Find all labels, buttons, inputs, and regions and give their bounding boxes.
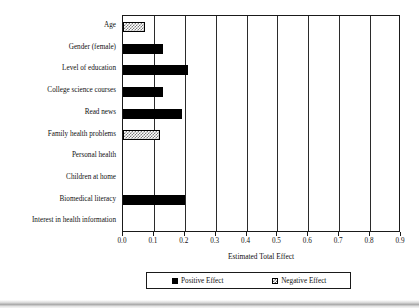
chart-legend: Positive EffectNegative Effect [146,272,351,289]
category-label: College science courses [47,80,116,102]
bar-band [123,38,399,60]
x-axis-title: Estimated Total Effect [122,252,400,261]
x-axis-tick [122,232,123,236]
x-axis-tick [153,232,154,236]
bar[interactable] [123,87,163,97]
scan-artifact-strip [0,300,419,308]
x-axis-tick-label: 0.3 [210,237,219,245]
bar-band [123,103,399,125]
x-axis-tick-label: 0.2 [179,237,188,245]
bar[interactable] [123,109,182,119]
x-axis-tick [338,232,339,236]
x-axis-tick [246,232,247,236]
bar-band [123,190,399,212]
chart-figure: AgeGender (female)Level of educationColl… [0,0,419,308]
bar[interactable] [123,195,185,205]
category-label: Level of education [62,58,116,80]
legend-entry-negative[interactable]: Negative Effect [249,277,351,285]
bar-band [123,146,399,168]
legend-label: Negative Effect [281,277,326,285]
category-label: Interest in health information [32,210,116,232]
bar[interactable] [123,22,145,32]
x-axis-tick-label: 0.7 [334,237,343,245]
bar-band [123,211,399,233]
x-axis-tick-label: 0.5 [272,237,281,245]
bar-band [123,81,399,103]
category-label: Biomedical literacy [60,189,116,211]
bar-band [123,59,399,81]
category-label: Read news [85,102,116,124]
category-label: Gender (female) [69,37,116,59]
category-axis-labels: AgeGender (female)Level of educationColl… [0,15,119,232]
plot-area [122,15,400,232]
category-label: Children at home [66,167,116,189]
x-axis-tick [276,232,277,236]
x-axis: 0.00.10.20.30.40.50.60.70.80.9 [122,232,400,254]
legend-entry-positive[interactable]: Positive Effect [147,277,249,285]
legend-swatch-negative-icon [272,278,278,284]
category-label: Personal health [72,145,116,167]
x-axis-tick-label: 0.0 [118,237,127,245]
x-axis-tick-label: 0.8 [365,237,374,245]
bar-band [123,168,399,190]
bar[interactable] [123,44,163,54]
x-axis-tick-label: 0.6 [303,237,312,245]
bar[interactable] [123,130,160,140]
legend-swatch-positive-icon [172,278,178,284]
x-axis-tick-label: 0.4 [241,237,250,245]
bar-band [123,16,399,38]
x-axis-tick [307,232,308,236]
x-axis-tick [215,232,216,236]
legend-label: Positive Effect [181,277,223,285]
category-label: Family health problems [48,124,116,146]
bar[interactable] [123,65,188,75]
x-axis-tick-label: 0.9 [396,237,405,245]
x-axis-tick [369,232,370,236]
category-label: Age [104,15,116,37]
x-axis-tick [184,232,185,236]
x-axis-tick-label: 0.1 [148,237,157,245]
x-axis-tick [400,232,401,236]
bar-band [123,125,399,147]
